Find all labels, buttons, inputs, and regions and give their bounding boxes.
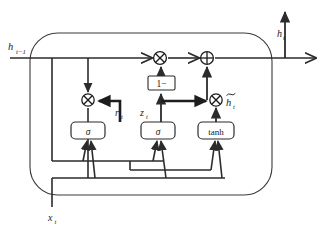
operator-mul-reset: [82, 94, 94, 106]
label-h-tilde: h t: [226, 93, 235, 110]
label-z-t: z t: [139, 107, 148, 120]
operator-mul-candidate: [210, 94, 222, 106]
sigma-update-label: σ: [156, 127, 161, 137]
update-gate-inputs: [153, 141, 166, 178]
tilde-accent-icon: [227, 93, 236, 95]
label-x-t: x t: [47, 212, 57, 225]
update-gate-output-path: [161, 94, 206, 122]
r-t-base: r: [115, 107, 119, 118]
one-minus-label: 1−: [156, 79, 166, 89]
h-prev-base: h: [8, 41, 13, 52]
sigma-reset-label: σ: [86, 127, 91, 137]
box-one-minus: 1−: [148, 76, 175, 90]
reset-gate-inputs: [83, 141, 95, 178]
z-t-base: z: [139, 107, 144, 118]
h-tilde-subscript: t: [233, 103, 235, 110]
h-tilde-base: h: [226, 97, 231, 108]
operator-add-output: [201, 52, 214, 65]
candidate-to-add-line: [207, 67, 208, 100]
h-out-subscript: t: [283, 34, 285, 41]
gru-cell-figure: 1− σ σ tanh h t−1 h t r t z t: [0, 0, 324, 227]
z-t-subscript: t: [146, 113, 148, 120]
hidden-state-left-bus: [52, 58, 163, 161]
x-t-subscript: t: [55, 218, 57, 225]
operator-mul-forget: [154, 52, 167, 65]
gru-diagram-canvas: 1− σ σ tanh h t−1 h t r t z t: [0, 0, 324, 227]
box-tanh-candidate: tanh: [198, 122, 234, 139]
h-out-base: h: [277, 28, 282, 39]
input-x-bus: [52, 178, 225, 207]
h-prev-subscript: t−1: [16, 48, 26, 55]
r-t-subscript: t: [121, 113, 123, 120]
box-sigma-reset: σ: [71, 122, 105, 139]
label-h-prev: h t−1: [8, 41, 26, 55]
candidate-gate-inputs: [130, 141, 222, 178]
tanh-label: tanh: [208, 127, 224, 137]
box-sigma-update: σ: [141, 122, 175, 139]
x-t-base: x: [47, 212, 53, 223]
label-h-out-top: h t: [277, 28, 285, 41]
